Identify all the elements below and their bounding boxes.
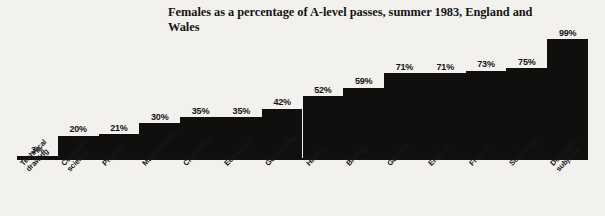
bar-value-label: 99%: [547, 28, 588, 38]
bar-group: 71%: [384, 24, 425, 160]
bar-value-label: 21%: [99, 123, 140, 133]
bar-value-label: 30%: [139, 112, 180, 122]
bar-value-label: 20%: [58, 124, 99, 134]
bar-value-label: 42%: [262, 97, 303, 107]
bar-group: 3%: [17, 24, 58, 160]
bar-value-label: 71%: [425, 62, 466, 72]
bar-group: 35%: [180, 24, 221, 160]
bar-value-label: 35%: [221, 106, 262, 116]
bar-value-label: 71%: [384, 62, 425, 72]
bar-value-label: 52%: [303, 85, 344, 95]
chart-figure: Females as a percentage of A-level passe…: [0, 0, 605, 216]
bar-group: 59%: [343, 24, 384, 160]
bar-group: 73%: [466, 24, 507, 160]
bar-group: 99%: [547, 24, 588, 160]
bar-group: 20%: [58, 24, 99, 160]
plot-area: 3%20%21%30%35%35%42%52%59%71%71%73%75%99…: [0, 24, 605, 160]
bar-value-label: 73%: [466, 59, 507, 69]
bar-group: 75%: [506, 24, 547, 160]
bar-group: 21%: [99, 24, 140, 160]
bar-value-label: 75%: [506, 57, 547, 67]
bar-value-label: 35%: [180, 106, 221, 116]
bar-value-label: 59%: [343, 76, 384, 86]
bar-group: 52%: [303, 24, 344, 160]
bar-group: 71%: [425, 24, 466, 160]
x-axis-category-labels: Technical drawingComputer sciencePhysics…: [0, 160, 605, 216]
